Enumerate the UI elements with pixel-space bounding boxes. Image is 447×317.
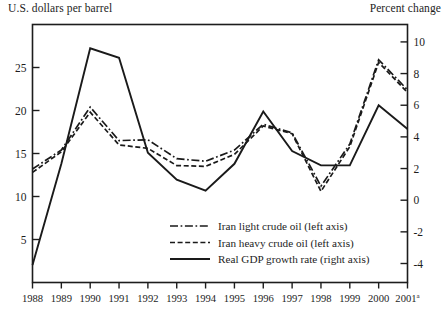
right-tick-label: 2	[414, 163, 420, 175]
legend-label-0: Iran light crude oil (left axis)	[218, 220, 348, 233]
right-axis-ticks: 1086420-2-4	[401, 36, 426, 270]
x-tick-label: 1998	[310, 293, 331, 304]
right-tick-label: 10	[414, 36, 426, 48]
x-tick-label: 2000	[368, 293, 389, 304]
line-chart-plot: 510152025 1086420-2-4 198819891990199119…	[0, 0, 447, 317]
x-tick-label: 1990	[80, 293, 101, 304]
left-tick-label: 5	[21, 234, 27, 246]
x-tick-label: 2001a	[395, 292, 420, 304]
data-series-layer	[33, 48, 408, 265]
x-tick-label: 1999	[339, 293, 360, 304]
right-tick-label: 0	[414, 194, 420, 206]
x-tick-label: 1997	[282, 293, 303, 304]
series-line-2	[33, 48, 408, 265]
legend-label-1: Iran heavy crude oil (left axis)	[218, 237, 354, 250]
right-tick-label: -2	[414, 226, 424, 238]
left-tick-label: 15	[15, 148, 27, 160]
right-tick-label: -4	[414, 258, 424, 270]
left-tick-label: 25	[15, 62, 27, 74]
x-tick-label: 1995	[224, 293, 245, 304]
chart-figure: U.S. dollars per barrel Percent change 5…	[0, 0, 447, 317]
x-tick-label: 1996	[253, 293, 274, 304]
left-tick-label: 10	[15, 191, 27, 203]
right-tick-label: 6	[414, 99, 420, 111]
x-tick-label: 1993	[166, 293, 187, 304]
left-axis-ticks: 510152025	[15, 62, 40, 246]
x-tick-label: 1991	[108, 293, 129, 304]
right-tick-label: 4	[414, 131, 420, 143]
x-tick-label: 1988	[22, 293, 43, 304]
series-line-1	[33, 62, 408, 191]
x-tick-label: 1989	[51, 293, 72, 304]
right-tick-label: 8	[414, 68, 420, 80]
legend-label-2: Real GDP growth rate (right axis)	[218, 253, 370, 266]
chart-legend: Iran light crude oil (left axis)Iran hea…	[170, 220, 370, 266]
x-axis-ticks: 1988198919901991199219931994199519961997…	[22, 283, 421, 304]
series-line-0	[33, 60, 408, 186]
left-tick-label: 20	[15, 105, 27, 117]
x-tick-label: 1992	[137, 293, 158, 304]
x-tick-label: 1994	[195, 293, 217, 304]
